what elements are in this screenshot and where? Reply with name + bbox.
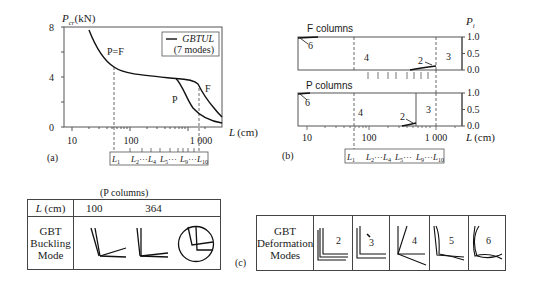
deformation-mode-4: 4 [390, 216, 430, 271]
subplot-title-f-columns: F columns [307, 23, 353, 34]
mode-number: 3 [369, 237, 374, 248]
mode-label: 4 [364, 52, 369, 63]
curve-f [176, 79, 222, 118]
mode-label: 6 [305, 97, 310, 108]
y-tick-label: 1.0 [467, 87, 480, 98]
panel-label-c: (c) [235, 257, 246, 268]
deformation-modes-table: GBTDeformationModes 2 3 4 5 6 [256, 215, 506, 271]
row-label-deformation-modes: GBTDeformationModes [257, 216, 314, 271]
legend-label: GBTUL [182, 33, 214, 44]
y-tick-label: 0 [49, 122, 54, 133]
y-tick-label: 0.5 [467, 48, 480, 59]
y-axis-label-pi: Pi [465, 15, 475, 30]
x-axis-label: L(cm) [228, 126, 258, 139]
subplot-frame-f [298, 37, 462, 70]
y-tick-label: 4 [49, 72, 54, 83]
header-length-label: L (cm) [28, 200, 74, 217]
buckling-shape-l364 [137, 228, 168, 257]
mode-label: 3 [446, 51, 451, 62]
deformation-mode-2: 2 [314, 216, 353, 271]
annotation-p: P [172, 94, 178, 105]
deformation-mode-5: 5 [430, 216, 469, 271]
length-value: 100 [86, 202, 103, 214]
length-value: 364 [145, 202, 162, 214]
deformation-mode-3: 3 [353, 216, 390, 271]
buckling-mode-table: L (cm) 100 364 GBTBucklingMode [27, 199, 221, 270]
mode-number: 6 [486, 235, 491, 246]
annotation-p-equals-f: P=F [107, 46, 124, 57]
y-tick-label: 0.5 [467, 104, 480, 115]
table-title-p-columns: (P columns) [100, 187, 148, 198]
x-axis-label: L(cm) [465, 131, 495, 144]
mode-number: 5 [449, 235, 454, 246]
buckling-mode-shapes [74, 217, 221, 270]
x-tick-label: 100 [362, 132, 377, 143]
cross-section-circle-icon [179, 227, 214, 262]
mode-label: 2 [400, 111, 405, 122]
mode-2-curve-f [410, 66, 436, 70]
mode-label: 3 [426, 104, 431, 115]
row-label-buckling-mode: GBTBucklingMode [28, 217, 74, 270]
y-tick-label: 8 [49, 22, 54, 33]
header-lengths: 100 364 [74, 200, 221, 217]
x-tick-label: 10 [67, 135, 77, 146]
length-markers-box: L1 L2···L4 L5··· L9···L10 [345, 149, 444, 164]
panel-b-chart: F columns Pi 1.0 0.5 0.0 6 4 2 3 P colum… [270, 0, 541, 185]
y-tick-label: 0.0 [467, 64, 480, 75]
legend: GBTUL (7 modes) [162, 32, 219, 56]
x-tick-label: 10 [302, 132, 312, 143]
panel-label-a: (a) [47, 152, 58, 164]
subplot-title-p-columns: P columns [306, 80, 353, 91]
annotation-f: F [205, 83, 211, 94]
panel-a-chart: Pcr(kN) 8 4 0 10 100 1 000 L(cm) P=F P F [0, 0, 270, 185]
mode-6-curve-p [298, 93, 310, 94]
length-markers-box: L1 L2···L4 L5··· L9···L10 [110, 148, 208, 166]
buckling-shape-l100 [91, 228, 126, 257]
subplot-frame-p [298, 93, 462, 126]
mode-number: 2 [336, 235, 341, 246]
x-tick-label: 100 [124, 135, 139, 146]
mode-6-curve-f [298, 37, 318, 38]
panel-label-b: (b) [282, 150, 294, 162]
mode-label: 2 [418, 55, 423, 66]
x-tick-label: 1 000 [425, 132, 448, 143]
y-tick-label: 1.0 [467, 31, 480, 42]
mode-number: 4 [412, 235, 417, 246]
x-ticks [72, 127, 205, 131]
deformation-mode-6: 6 [469, 216, 506, 271]
y-tick-label: 0.0 [467, 120, 480, 131]
x-tick-label: 1 000 [190, 135, 213, 146]
legend-sublabel: (7 modes) [174, 44, 214, 56]
mode-label: 4 [358, 107, 363, 118]
y-axis-label: Pcr(kN) [61, 12, 96, 27]
mode-label: 6 [308, 40, 313, 51]
